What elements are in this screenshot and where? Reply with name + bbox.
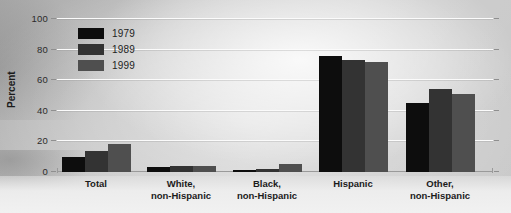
bar bbox=[365, 62, 388, 172]
chart-figure: Percent 020406080100 TotalWhite,non-Hisp… bbox=[0, 0, 511, 213]
y-tick-mark-right-20 bbox=[494, 140, 499, 141]
legend-item: 1999 bbox=[78, 58, 135, 72]
bar bbox=[342, 60, 365, 172]
bar bbox=[452, 94, 475, 172]
bar bbox=[108, 144, 131, 172]
y-tick-label-40: 40 bbox=[37, 104, 48, 115]
y-tick-mark-left-60 bbox=[51, 79, 56, 80]
axis-right-cap bbox=[492, 168, 493, 173]
y-tick-label-20: 20 bbox=[37, 135, 48, 146]
bar bbox=[85, 151, 108, 172]
x-tick-label: Other,non-Hispanic bbox=[410, 178, 470, 201]
x-tick-label-line: Total bbox=[85, 178, 107, 190]
y-tick-mark-left-80 bbox=[51, 49, 56, 50]
legend-item: 1979 bbox=[78, 26, 135, 40]
y-tick-mark-right-40 bbox=[494, 110, 499, 111]
bar bbox=[62, 157, 85, 172]
bar bbox=[279, 164, 302, 172]
y-axis-title-text: Percent bbox=[6, 71, 17, 108]
legend-item: 1989 bbox=[78, 42, 135, 56]
y-tick-mark-right-60 bbox=[494, 79, 499, 80]
x-tick-label-line: Hispanic bbox=[333, 178, 373, 190]
bar-group bbox=[319, 19, 388, 172]
x-tick-label: Black,non-Hispanic bbox=[237, 178, 297, 201]
bar bbox=[256, 169, 279, 172]
y-tick-mark-left-100 bbox=[51, 18, 56, 19]
legend-swatch bbox=[78, 60, 104, 71]
bar bbox=[429, 89, 452, 172]
legend-label: 1979 bbox=[112, 28, 135, 39]
x-tick-label-line: White, bbox=[151, 178, 211, 190]
bar-group bbox=[233, 19, 302, 172]
y-tick-label-100: 100 bbox=[32, 13, 48, 24]
x-tick-label: White,non-Hispanic bbox=[151, 178, 211, 201]
y-tick-mark-right-0 bbox=[494, 171, 499, 172]
bar bbox=[193, 166, 216, 172]
chart-legend: 197919891999 bbox=[78, 26, 135, 74]
legend-label: 1989 bbox=[112, 44, 135, 55]
bar bbox=[319, 56, 342, 172]
bar-group bbox=[406, 19, 475, 172]
y-tick-label-60: 60 bbox=[37, 74, 48, 85]
x-tick-label-line: non-Hispanic bbox=[151, 190, 211, 202]
y-tick-mark-left-0 bbox=[51, 171, 56, 172]
x-tick-label-line: non-Hispanic bbox=[410, 190, 470, 202]
axis-left-cap bbox=[57, 168, 58, 173]
y-tick-mark-left-40 bbox=[51, 110, 56, 111]
bar bbox=[170, 166, 193, 172]
x-tick-label: Total bbox=[85, 178, 107, 190]
x-tick-label-line: Black, bbox=[237, 178, 297, 190]
bar bbox=[233, 170, 256, 172]
legend-swatch bbox=[78, 44, 104, 55]
y-tick-mark-right-100 bbox=[494, 18, 499, 19]
x-tick-label-line: Other, bbox=[410, 178, 470, 190]
y-tick-label-0: 0 bbox=[43, 166, 48, 177]
bar bbox=[147, 167, 170, 172]
x-tick-label-line: non-Hispanic bbox=[237, 190, 297, 202]
y-tick-label-80: 80 bbox=[37, 43, 48, 54]
legend-swatch bbox=[78, 28, 104, 39]
bar-group bbox=[147, 19, 216, 172]
legend-label: 1999 bbox=[112, 60, 135, 71]
y-tick-mark-right-80 bbox=[494, 49, 499, 50]
y-tick-mark-left-20 bbox=[51, 140, 56, 141]
x-tick-label: Hispanic bbox=[333, 178, 373, 190]
bar bbox=[406, 103, 429, 172]
